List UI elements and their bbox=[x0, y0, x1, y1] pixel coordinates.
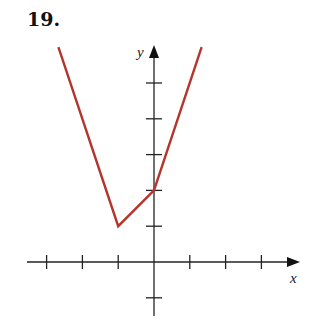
x-axis-label: x bbox=[289, 270, 297, 286]
y-arrow-icon bbox=[149, 45, 159, 58]
function-curve bbox=[58, 47, 201, 226]
x-axis: x bbox=[27, 255, 300, 286]
y-axis-label: y bbox=[135, 44, 144, 60]
x-arrow-icon bbox=[287, 257, 300, 267]
graph: x y bbox=[0, 0, 312, 335]
